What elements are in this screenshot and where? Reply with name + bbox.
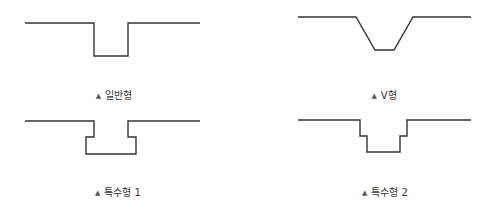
triangle-marker-icon: ▲	[371, 92, 376, 100]
caption-text: V형	[381, 90, 397, 101]
caption-text: 일반형	[105, 90, 132, 101]
caption-special-1: ▲특수형 1	[95, 187, 141, 199]
caption-v-type: ▲V형	[371, 90, 396, 102]
v-groove-profile	[298, 17, 471, 50]
caption-general: ▲일반형	[96, 90, 132, 102]
general-groove-profile	[25, 23, 200, 56]
triangle-marker-icon: ▲	[95, 189, 100, 197]
groove-profile-diagram	[0, 0, 489, 210]
special-2-groove-profile	[298, 120, 471, 152]
caption-text: 특수형 2	[371, 187, 408, 198]
caption-text: 특수형 1	[104, 187, 141, 198]
triangle-marker-icon: ▲	[96, 92, 101, 100]
caption-special-2: ▲특수형 2	[362, 187, 408, 199]
special-1-groove-profile	[25, 121, 200, 154]
triangle-marker-icon: ▲	[362, 189, 367, 197]
